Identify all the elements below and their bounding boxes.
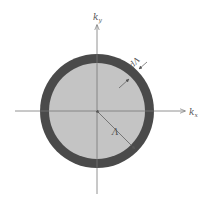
y-axis-label: ky bbox=[93, 12, 102, 24]
radius-label: Λ bbox=[111, 127, 119, 137]
momentum-shell-diagram: kx ky Λ dΛ bbox=[0, 0, 211, 208]
x-axis-label: kx bbox=[189, 107, 198, 118]
